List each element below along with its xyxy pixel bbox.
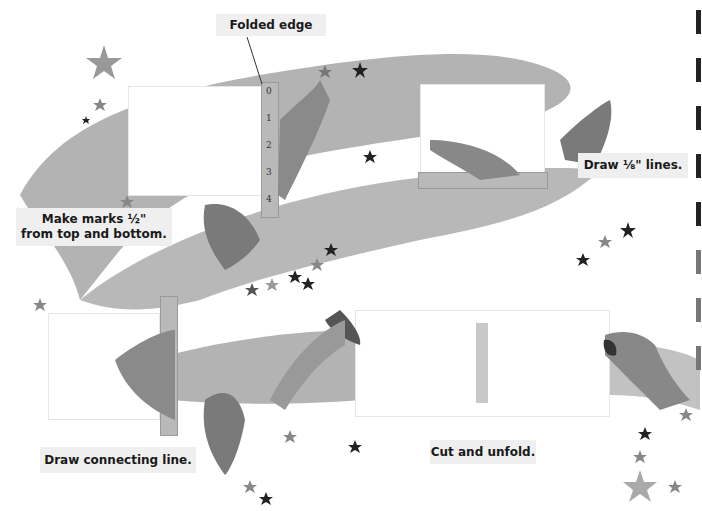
step3-ruler [160,296,178,436]
step3-label: Draw connecting line. [40,447,196,473]
ruler-tick: 1 [266,113,272,123]
edge-bar [696,250,701,274]
step2-label: Draw ⅛" lines. [578,153,688,178]
cut-slot [476,323,488,403]
step3-paper [48,313,160,420]
step1-paper [128,86,262,196]
ruler-tick: 4 [266,194,272,204]
edge-bar [696,346,701,370]
craft-instructions-diagram: 0 1 2 3 4 Folded edge Make marks ½" from… [0,0,702,511]
step2-ruler [418,172,548,189]
ruler-tick: 2 [266,140,272,150]
ruler-tick: 3 [266,167,272,177]
edge-bar [696,298,701,322]
step2-paper [420,84,545,174]
edge-bar [696,202,701,226]
step1-ruler: 0 1 2 3 4 [261,82,279,218]
edge-bar [696,10,701,34]
folded-edge-label: Folded edge [216,14,326,36]
step1-label: Make marks ½" from top and bottom. [16,208,172,246]
edge-bar [696,58,701,82]
ribbon-background [0,0,702,511]
step4-label: Cut and unfold. [430,440,536,464]
step1-label-line1: Make marks ½" [16,212,172,227]
edge-bar [696,106,701,130]
ruler-tick: 0 [266,86,272,96]
step1-label-line2: from top and bottom. [16,227,172,242]
edge-bar [696,154,701,178]
